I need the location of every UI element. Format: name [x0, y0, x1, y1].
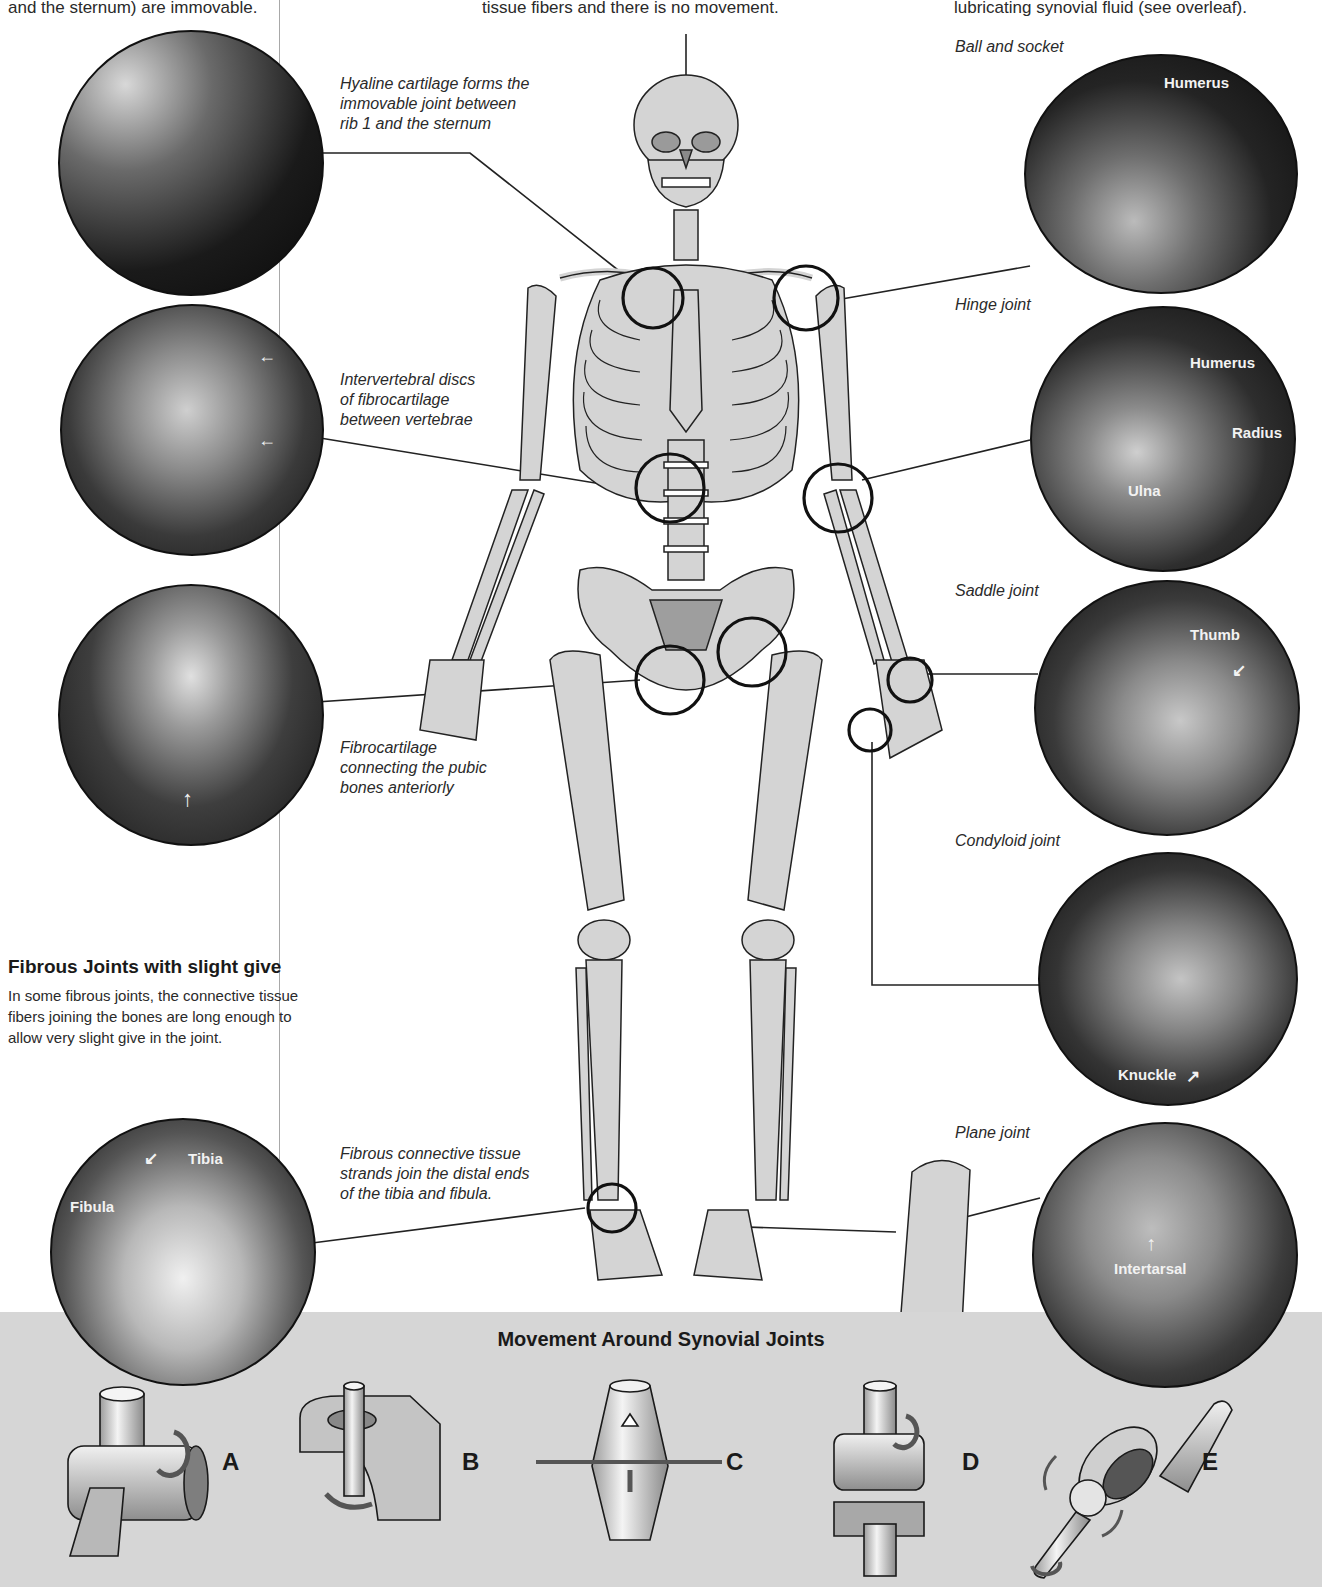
model-b	[300, 1382, 440, 1520]
model-a	[68, 1387, 208, 1556]
model-label-b: B	[462, 1448, 479, 1476]
model-label-c: C	[726, 1448, 743, 1476]
xray-ankle: Tibia ↙ Fibula	[50, 1118, 316, 1386]
arrow-up-icon: ↑	[1146, 1232, 1156, 1255]
model-e	[1032, 1401, 1232, 1578]
model-label-e: E	[1202, 1448, 1218, 1476]
model-d	[834, 1381, 924, 1576]
model-c	[536, 1380, 722, 1540]
label-intertarsal: Intertarsal	[1114, 1260, 1187, 1277]
xray-intertarsal-plane: ↑ Intertarsal	[1032, 1122, 1298, 1388]
label-tibia: Tibia	[188, 1150, 223, 1167]
model-label-a: A	[222, 1448, 239, 1476]
arrow-down-left-icon: ↙	[144, 1148, 158, 1169]
label-fibula: Fibula	[70, 1198, 114, 1215]
model-label-d: D	[962, 1448, 979, 1476]
